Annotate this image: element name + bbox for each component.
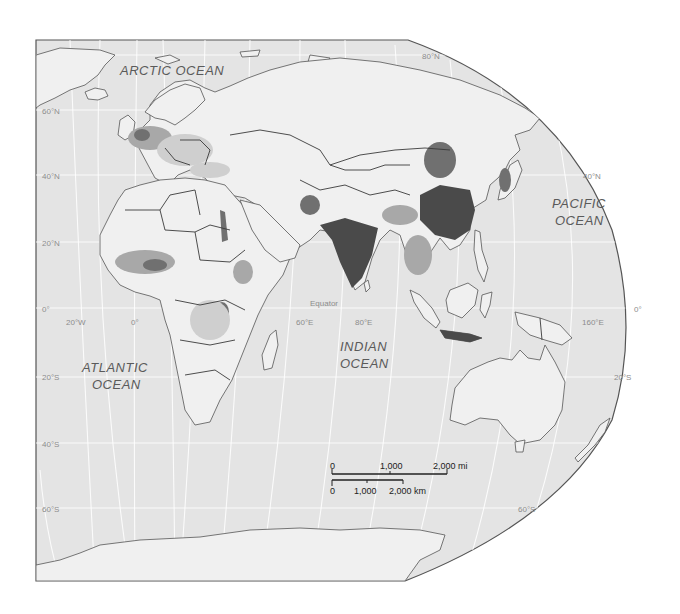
- lon-60e-label: 60°E: [296, 318, 313, 327]
- lat-60s-right-label: 60°S: [518, 505, 535, 514]
- world-map: ARCTIC OCEAN PACIFIC OCEAN ATLANTIC OCEA…: [0, 0, 680, 614]
- scale-km-label-2000: 2,000 km: [389, 486, 426, 496]
- scale-mi-label-2000: 2,000 mi: [433, 461, 468, 471]
- lat-20s-left-label: 20°S: [42, 373, 59, 382]
- scale-mi-label-0: 0: [330, 461, 335, 471]
- lat-0-right-label: 0°: [634, 305, 642, 314]
- pacific-ocean-label-line2: OCEAN: [555, 213, 604, 228]
- lat-40s-label: 40°S: [42, 440, 59, 449]
- pacific-ocean-label-line1: PACIFIC: [552, 196, 606, 211]
- lat-60n-label: 60°N: [42, 107, 60, 116]
- indian-ocean-label-line2: OCEAN: [340, 356, 389, 371]
- scale-km-label-0: 0: [330, 486, 335, 496]
- lat-60s-left-label: 60°S: [42, 505, 59, 514]
- atlantic-ocean-label-line2: OCEAN: [92, 377, 141, 392]
- lat-20s-right-label: 20°S: [614, 373, 631, 382]
- lat-20n-label: 20°N: [42, 239, 60, 248]
- lon-160e-label: 160°E: [582, 318, 604, 327]
- lat-80n-label: 80°N: [422, 52, 440, 61]
- atlantic-ocean-label-line1: ATLANTIC: [81, 360, 148, 375]
- tasmania: [515, 440, 525, 452]
- scale-mi-label-1000: 1,000: [380, 461, 403, 471]
- lon-20w-label: 20°W: [66, 318, 86, 327]
- lat-40n-left-label: 40°N: [42, 172, 60, 181]
- lat-40n-right-label: 40°N: [583, 172, 601, 181]
- arctic-ocean-label: ARCTIC OCEAN: [119, 63, 224, 78]
- equator-label: Equator: [310, 299, 338, 308]
- scale-km-label-1000: 1,000: [354, 486, 377, 496]
- indian-ocean-label-line1: INDIAN: [340, 339, 387, 354]
- lon-80e-label: 80°E: [355, 318, 372, 327]
- lon-0-label: 0°: [131, 318, 139, 327]
- lat-0-left-label: 0°: [42, 305, 50, 314]
